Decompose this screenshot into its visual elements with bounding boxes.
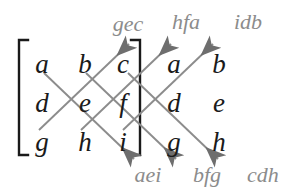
- matrix-entry-r1c1: e: [70, 90, 100, 117]
- product-label-gec: gec: [95, 13, 161, 35]
- product-label-hfa: hfa: [153, 11, 219, 33]
- matrix-entry-r0c2: c: [108, 51, 138, 78]
- matrix-entry-r0c4: b: [204, 51, 234, 78]
- matrix-entry-r1c0: d: [27, 90, 57, 117]
- matrix-entry-r2c1: h: [70, 129, 100, 156]
- product-label-cdh: cdh: [230, 164, 287, 186]
- matrix-entry-r2c2: i: [108, 129, 138, 156]
- product-label-aei: aei: [115, 164, 181, 186]
- matrix-entry-r2c4: h: [204, 129, 234, 156]
- sarrus-rule-figure: a b c a b d e f d e g h i g h gec hfa id…: [0, 0, 287, 193]
- matrix-entry-r2c3: g: [159, 129, 189, 156]
- matrix-entry-r1c4: e: [204, 90, 234, 117]
- matrix-entry-r0c0: a: [27, 51, 57, 78]
- matrix-entry-r0c1: b: [70, 51, 100, 78]
- matrix-entry-r1c2: f: [108, 90, 138, 117]
- product-label-idb: idb: [215, 11, 281, 33]
- matrix-entry-r2c0: g: [27, 129, 57, 156]
- matrix-entry-r0c3: a: [159, 51, 189, 78]
- matrix-entry-r1c3: d: [159, 90, 189, 117]
